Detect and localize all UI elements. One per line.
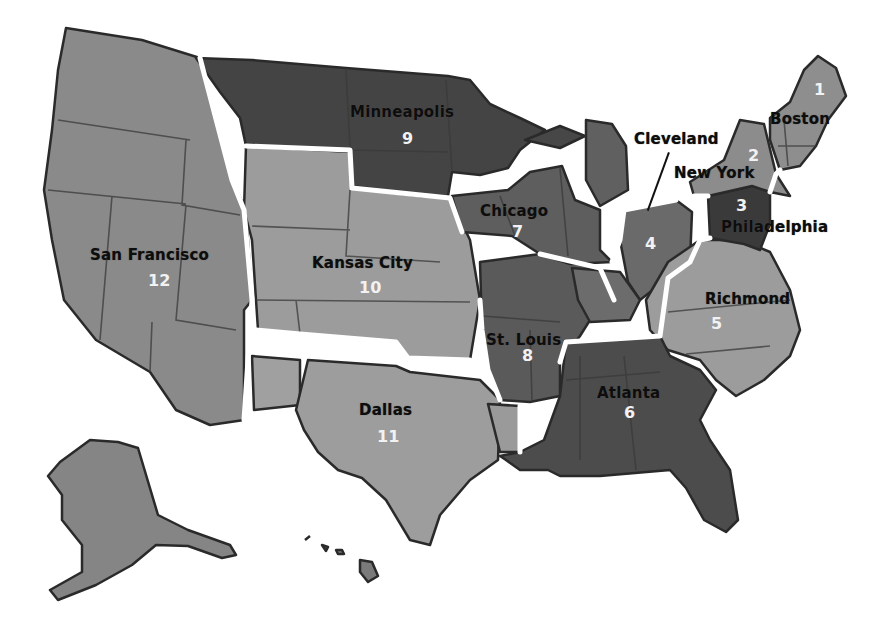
district-number-10: 10 (359, 278, 381, 297)
city-label-dallas: Dallas (359, 401, 412, 419)
us-map (0, 0, 881, 633)
city-label-minneapolis: Minneapolis (350, 103, 454, 121)
city-label-philadelphia: Philadelphia (721, 218, 828, 236)
district-number-2: 2 (748, 146, 759, 165)
district-11-region[interactable] (252, 356, 520, 545)
city-label-chicago: Chicago (480, 202, 548, 220)
district-number-9: 9 (402, 129, 413, 148)
district-number-11: 11 (377, 427, 399, 446)
district-number-12: 12 (148, 271, 170, 290)
district-number-4: 4 (645, 234, 656, 253)
city-label-atlanta: Atlanta (597, 384, 660, 402)
district-number-3: 3 (736, 196, 747, 215)
district-number-6: 6 (624, 403, 635, 422)
district-number-7: 7 (512, 222, 523, 241)
city-label-san-francisco: San Francisco (90, 246, 209, 264)
city-label-cleveland: Cleveland (634, 130, 719, 148)
district-number-1: 1 (814, 80, 825, 99)
city-label-kansas-city: Kansas City (312, 254, 413, 272)
city-label-boston: Boston (770, 110, 830, 128)
city-label-richmond: Richmond (705, 290, 790, 308)
district-number-5: 5 (711, 314, 722, 333)
city-label-new-york: New York (674, 164, 755, 182)
district-number-8: 8 (522, 346, 533, 365)
